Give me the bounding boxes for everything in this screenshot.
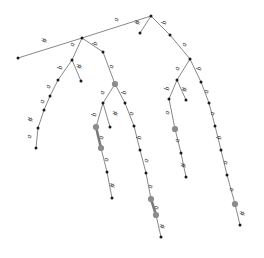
tree-node (176, 79, 179, 82)
tree-node (169, 34, 172, 37)
tree-node (180, 152, 183, 155)
tree-node (71, 59, 74, 62)
tree-node (57, 79, 60, 82)
tree-node (208, 102, 211, 105)
tree-node (150, 15, 153, 18)
tree-node (124, 102, 127, 105)
tree-node (37, 127, 40, 130)
tree-node (133, 125, 136, 128)
tree-node-leaf (109, 126, 112, 129)
tree-node (81, 37, 84, 40)
tree-node (214, 125, 217, 128)
tree-node (189, 58, 192, 61)
tree-node (168, 98, 171, 101)
tree-node-leaf (80, 80, 83, 83)
tree-node (43, 109, 46, 112)
tree-node-highlighted (93, 124, 99, 130)
tree-node (106, 171, 109, 174)
tree-node-highlighted (153, 212, 159, 218)
tree-node-leaf (111, 197, 114, 200)
tree-node-leaf (35, 147, 38, 150)
tree-node-highlighted (232, 201, 238, 207)
tree-node-leaf (139, 32, 142, 35)
tree-node-leaf (160, 236, 163, 239)
tree-node-leaf (185, 176, 188, 179)
tree-node-leaf (185, 99, 188, 102)
tree-node (145, 172, 148, 175)
tree-node-leaf (17, 57, 20, 60)
tree-node (220, 149, 223, 152)
tree-node (102, 102, 105, 105)
tree-node-highlighted (98, 145, 104, 151)
tree-node-highlighted (112, 81, 118, 87)
suffix-tree-diagram: a#b#abab#aabaabb#aab#aaa#ababaaa#a#aaa## (0, 0, 264, 258)
tree-node-highlighted (148, 196, 154, 202)
tree-node (49, 95, 52, 98)
tree-node (226, 174, 229, 177)
tree-node (102, 51, 105, 54)
tree-node-leaf (239, 224, 242, 227)
tree-node (139, 149, 142, 152)
tree-node-highlighted (172, 126, 178, 132)
tree-node (200, 81, 203, 84)
